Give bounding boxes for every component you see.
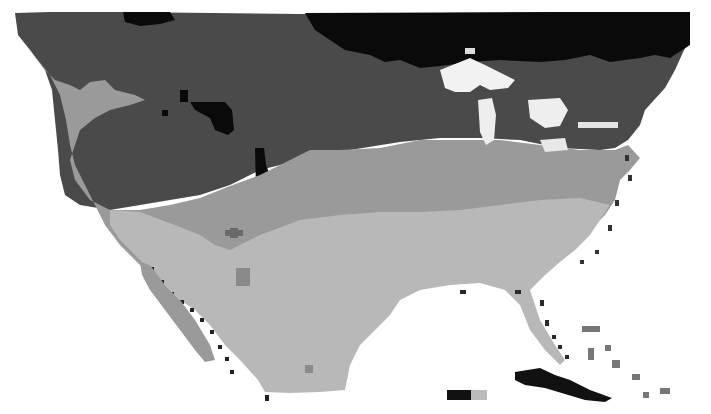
region-patch (236, 268, 250, 286)
region-great-lakes (465, 48, 475, 54)
region-northern-band (180, 90, 188, 102)
region-patch (225, 230, 243, 236)
region-caribbean-islands (447, 390, 471, 400)
region-caribbean-islands (471, 390, 487, 400)
region-northern-band (162, 110, 168, 116)
zone-map (0, 0, 711, 414)
region-great-lakes (540, 138, 568, 152)
region-patch (305, 365, 313, 373)
region-great-lakes (578, 122, 618, 128)
